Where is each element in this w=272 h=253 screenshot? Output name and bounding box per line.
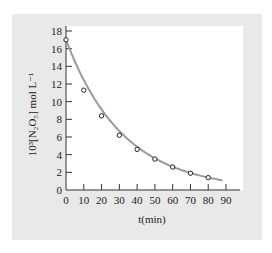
y-tick-label: 18 xyxy=(51,25,63,37)
y-tick-label: 6 xyxy=(57,131,63,143)
x-tick-label: 20 xyxy=(96,194,108,206)
x-tick-label: 80 xyxy=(203,194,215,206)
data-point xyxy=(153,157,157,161)
y-tick-label: 2 xyxy=(57,166,63,178)
y-tick-label: 14 xyxy=(51,60,63,72)
data-point xyxy=(188,171,192,175)
data-point xyxy=(170,165,174,169)
y-tick-label: 4 xyxy=(57,149,63,161)
y-axis-label: 10³[N₂O₅] mol L⁻¹ xyxy=(26,73,38,157)
y-tick-label: 8 xyxy=(57,113,63,125)
x-tick-label: 10 xyxy=(78,194,90,206)
data-point xyxy=(135,147,139,151)
x-tick-label: 60 xyxy=(167,194,179,206)
plot-area xyxy=(66,26,243,190)
y-tick-label: 16 xyxy=(51,43,63,55)
data-point xyxy=(99,114,103,118)
y-tick-label: 10 xyxy=(51,96,63,108)
y-tick-label: 0 xyxy=(57,184,63,196)
x-tick-label: 30 xyxy=(114,194,126,206)
x-tick-label: 50 xyxy=(149,194,161,206)
data-point xyxy=(117,133,121,137)
y-tick-label: 12 xyxy=(51,78,62,90)
x-axis-label: t(min) xyxy=(138,213,166,226)
x-tick-label: 90 xyxy=(221,194,233,206)
x-tick-label: 0 xyxy=(63,194,69,206)
data-point xyxy=(206,175,210,179)
data-point xyxy=(82,88,86,92)
data-point xyxy=(64,38,68,42)
x-tick-label: 70 xyxy=(185,194,197,206)
decay-chart: 0246810121416180102030405060708090t(min)… xyxy=(0,0,272,253)
x-tick-label: 40 xyxy=(132,194,144,206)
